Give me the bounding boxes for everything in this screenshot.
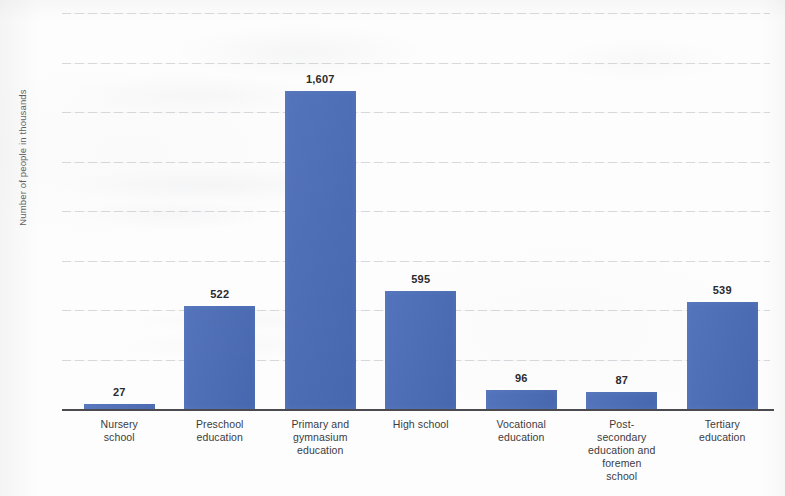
gridline: [62, 211, 770, 212]
x-axis-baseline: [62, 409, 774, 411]
category-label-line: gymnasium: [261, 431, 380, 444]
bar-value-label: 27: [59, 386, 180, 398]
gridline: [62, 112, 770, 113]
gridline: [62, 261, 770, 262]
bar[interactable]: [687, 302, 758, 409]
x-axis-category-label: Tertiaryeducation: [663, 418, 782, 444]
category-label-line: Tertiary: [663, 418, 782, 431]
bar[interactable]: [385, 291, 456, 409]
bar[interactable]: [84, 404, 155, 409]
category-label-line: education: [261, 444, 380, 457]
chart-screenshot: Number of people in thousands 2,0001,750…: [0, 0, 785, 496]
y-axis-title: Number of people in thousands: [17, 43, 28, 273]
category-label-line: school: [563, 470, 682, 483]
bar-value-label: 1,607: [260, 73, 381, 85]
category-label-line: foremen: [563, 457, 682, 470]
bar-value-label: 595: [361, 273, 482, 285]
bar[interactable]: [285, 91, 356, 409]
gridline: [62, 63, 770, 64]
bar[interactable]: [486, 390, 557, 409]
gridline: [62, 13, 770, 14]
category-label-line: education: [663, 431, 782, 444]
bar[interactable]: [586, 392, 657, 409]
bar-value-label: 87: [562, 374, 683, 386]
category-label-line: education and: [563, 444, 682, 457]
bar-value-label: 539: [662, 284, 783, 296]
bar-value-label: 522: [160, 288, 281, 300]
bar[interactable]: [184, 306, 255, 409]
gridline: [62, 162, 770, 163]
plot-area: 2,0001,7501,5001,2501,0007505002500 2752…: [62, 0, 774, 410]
